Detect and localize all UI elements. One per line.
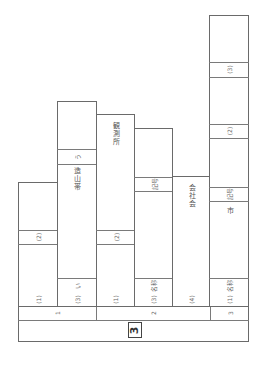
answer-sheet: 1 2 3 3 (2) (1) う 造山帯 い (3) 観測所 (2) (1) … [0, 0, 266, 372]
section-number-text: 3 [129, 326, 142, 334]
band-label: (3) [222, 50, 237, 90]
item-label: (1) [223, 280, 236, 320]
answer-text: 市 [226, 207, 233, 215]
section-number: 3 [128, 322, 142, 338]
item-label: (4) [185, 280, 198, 319]
item-label: (1) [109, 280, 122, 319]
divider [96, 306, 97, 320]
item-label: (1) [32, 280, 45, 320]
band-label: 記号 [147, 165, 161, 204]
item-label: (3) [147, 280, 160, 319]
answer-text: 造山帯 [73, 167, 80, 191]
band-label: (2) [109, 218, 123, 257]
band-label: (2) [222, 111, 236, 151]
answer-text: 観測所 [112, 122, 119, 146]
item-label: (3) [71, 280, 84, 320]
divider [210, 306, 211, 320]
answer-text: 会社会 [188, 184, 195, 208]
band-label: (2) [31, 217, 45, 257]
